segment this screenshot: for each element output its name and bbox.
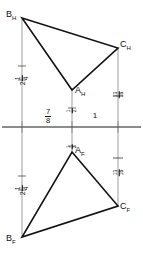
label-c-frontal: CF: [120, 202, 130, 213]
dimension-right-lower: 13 16: [114, 158, 125, 176]
label-a-horizontal: AH: [75, 86, 85, 97]
dimension-baseline-right: 1: [88, 112, 102, 120]
label-b-horizontal: BH: [6, 10, 16, 21]
technical-drawing-sheet: BH CH AH AF CF BF 7 8 1 2 1 4 2 1 4: [0, 0, 143, 255]
dimension-right-upper: 13 16: [114, 80, 125, 98]
dimension-arrows: [18, 66, 123, 190]
triangle-horizontal-view: [22, 18, 118, 90]
dimension-left-upper: 2 1 4: [15, 65, 29, 85]
triangle-frontal-view: [22, 152, 118, 237]
dimension-center-lower: 1 2: [67, 133, 78, 149]
dimension-baseline-left: 7 8: [40, 108, 56, 124]
dimension-left-lower: 2 1 4: [15, 175, 29, 195]
dimension-center-upper: 1 2: [67, 97, 78, 113]
label-c-horizontal: CH: [120, 40, 131, 51]
label-b-frontal: BF: [6, 234, 16, 245]
